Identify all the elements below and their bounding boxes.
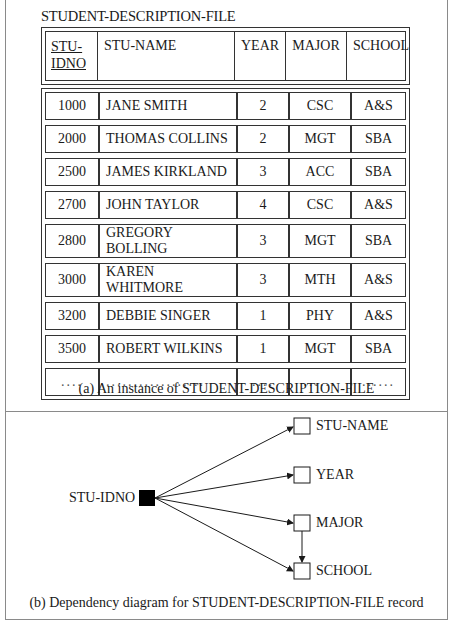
edge-idno-year <box>155 475 293 498</box>
edge-idno-name <box>155 427 293 498</box>
stu-name-node <box>294 418 310 434</box>
edge-idno-school <box>155 498 293 571</box>
caption-b: (b) Dependency diagram for STUDENT-DESCR… <box>5 595 448 611</box>
year-node <box>294 467 310 483</box>
node-label-year: YEAR <box>316 467 354 483</box>
node-label-major: MAJOR <box>316 515 363 531</box>
school-node <box>294 563 310 579</box>
node-label-stu-name: STU-NAME <box>316 418 388 434</box>
node-label-source: STU-IDNO <box>69 490 135 506</box>
stu-idno-key-node <box>139 490 155 506</box>
node-label-school: SCHOOL <box>316 563 372 579</box>
edge-idno-major <box>155 498 293 523</box>
major-node <box>294 515 310 531</box>
dependency-diagram <box>0 0 454 635</box>
